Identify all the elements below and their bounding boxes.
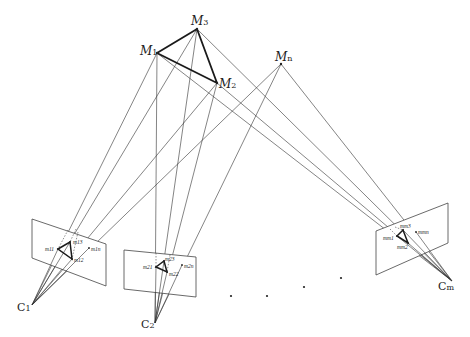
point-m21 — [155, 266, 157, 268]
triangle-3d — [157, 29, 217, 83]
label-m13: m13 — [73, 239, 83, 245]
label-C1: C1 — [17, 301, 31, 314]
label-m11: m11 — [45, 246, 54, 252]
label-mmn: mmn — [418, 229, 429, 235]
label-Mn: Mn — [274, 50, 292, 64]
point-M2 — [216, 82, 218, 84]
image-plane-1: m11 m13 m12 m1n — [32, 219, 106, 305]
label-m23: m23 — [165, 256, 175, 262]
label-M2: M2 — [218, 77, 236, 91]
label-M2-sub: 2 — [231, 81, 236, 90]
point-m13 — [69, 241, 71, 243]
points-3d — [156, 28, 282, 84]
label-C2-sub: 2 — [149, 321, 154, 330]
label-M3: M3 — [190, 14, 208, 28]
label-m2n: m2n — [184, 263, 194, 269]
label-m21: m21 — [143, 264, 153, 270]
image-plane-2: m21 m23 m22 m2n — [124, 250, 196, 323]
point-m12 — [71, 258, 73, 260]
label-m12: m12 — [74, 257, 84, 263]
ellipsis-dot — [230, 295, 232, 297]
ellipsis-dots — [230, 277, 342, 297]
label-C2: C2 — [141, 318, 155, 331]
point-mmn — [415, 231, 417, 233]
label-mm2: mm2 — [397, 244, 408, 250]
label-m22: m22 — [169, 271, 179, 277]
label-Cm-sub: m — [446, 283, 454, 292]
point-m22 — [166, 271, 168, 273]
point-mm3 — [402, 229, 404, 231]
ellipsis-dot — [340, 277, 342, 279]
label-m1n: m1n — [91, 246, 101, 252]
plane-1-outline — [32, 219, 106, 286]
point-m11 — [57, 248, 59, 250]
label-M1: M1 — [139, 44, 157, 58]
point-m2n — [181, 264, 183, 266]
label-C1-sub: 1 — [25, 304, 30, 313]
point-mm1 — [396, 235, 398, 237]
point-m1n — [88, 247, 90, 249]
ellipsis-dot — [303, 286, 305, 288]
label-Cm: Cm — [438, 280, 454, 293]
label-Mn-sub: n — [287, 54, 292, 63]
label-mm3: mm3 — [400, 223, 411, 229]
point-M3 — [196, 28, 198, 30]
label-mm1: mm1 — [383, 235, 394, 241]
image-plane-m: mm1 mm3 mm2 mmn — [376, 203, 452, 281]
label-M3-sub: 3 — [203, 18, 208, 27]
multi-view-diagram: m11 m13 m12 m1n m21 m23 m22 m2n — [0, 0, 470, 337]
label-M1-sub: 1 — [152, 48, 157, 57]
ellipsis-dot — [266, 295, 268, 297]
